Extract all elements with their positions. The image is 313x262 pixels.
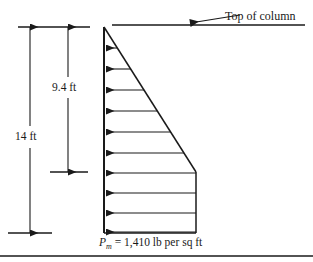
upper-height-label: 9.4 ft bbox=[52, 82, 76, 94]
top-of-column-label: Top of column bbox=[225, 10, 295, 22]
figure-linework bbox=[0, 0, 313, 262]
total-height-label: 14 ft bbox=[15, 131, 36, 143]
max-pressure-label: Pm = 1,410 lb per sq ft bbox=[99, 237, 202, 251]
max-pressure-symbol: P bbox=[99, 236, 106, 248]
pressure-distribution-figure: Top of column 14 ft 9.4 ft Pm = 1,410 lb… bbox=[0, 0, 313, 262]
pressure-slope-edge bbox=[104, 27, 196, 172]
max-pressure-value: = 1,410 lb per sq ft bbox=[112, 236, 203, 248]
